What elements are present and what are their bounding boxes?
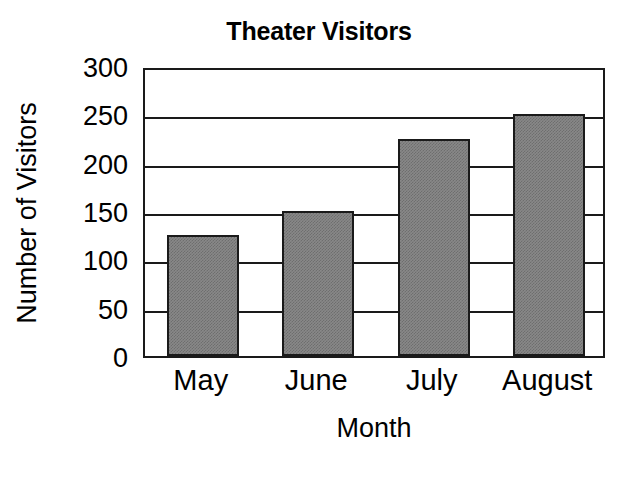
y-tick-label-150: 150 [83, 200, 128, 227]
x-tick-label-august: August [502, 362, 592, 398]
y-tick-label-300: 300 [83, 55, 128, 82]
bar-series [145, 70, 603, 356]
y-axis-title-container: Number of Visitors [6, 68, 48, 358]
x-tick-label-july: July [406, 362, 458, 398]
plot-inner [145, 70, 603, 356]
y-tick-label-100: 100 [83, 248, 128, 275]
bar-chart-figure: Theater Visitors Number of Visitors 0501… [0, 0, 638, 486]
plot-area [143, 68, 605, 358]
bar-august [513, 114, 585, 356]
y-tick-label-50: 50 [98, 296, 128, 323]
x-axis-tick-labels: MayJuneJulyAugust [143, 362, 605, 402]
y-tick-label-0: 0 [113, 345, 128, 372]
bar-may [167, 235, 239, 356]
x-tick-label-may: May [173, 362, 228, 398]
y-axis-title: Number of Visitors [11, 102, 43, 324]
x-tick-label-june: June [285, 362, 348, 398]
y-tick-label-250: 250 [83, 103, 128, 130]
bar-july [398, 139, 470, 357]
y-tick-label-200: 200 [83, 151, 128, 178]
x-axis-title: Month [143, 412, 605, 444]
bar-june [282, 211, 354, 356]
y-axis-tick-labels: 050100150200250300 [46, 0, 138, 486]
